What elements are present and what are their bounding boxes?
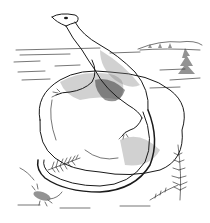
insect-icon: [32, 184, 62, 206]
reptile-illustration: [0, 0, 210, 223]
fern-left-icon: [20, 155, 80, 180]
boulder: [39, 71, 184, 175]
ground-lines: [18, 205, 150, 208]
illustration-canvas: [0, 0, 210, 223]
reptile: [38, 14, 155, 192]
eye-icon: [64, 17, 68, 19]
